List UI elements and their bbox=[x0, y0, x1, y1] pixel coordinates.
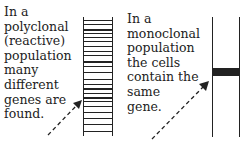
right-dashed-arrow-icon bbox=[152, 81, 209, 139]
left-dashed-arrow-icon bbox=[48, 100, 82, 135]
arrows-layer bbox=[0, 0, 242, 147]
clonality-diagram: In apolyclonal(reactive)populationmanydi… bbox=[0, 0, 242, 147]
